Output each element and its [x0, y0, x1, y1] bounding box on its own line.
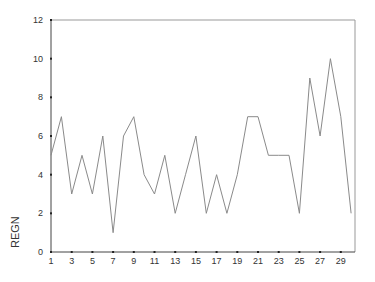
x-tick-label: 27	[315, 256, 325, 266]
plot-frame	[51, 20, 355, 252]
x-tick-label: 17	[212, 256, 222, 266]
y-tick-label: 12	[33, 15, 43, 25]
line-chart: 024681012 1357911131517192123252729 REGN	[0, 0, 375, 282]
x-tick-label: 5	[90, 256, 95, 266]
x-tick-label: 21	[253, 256, 263, 266]
x-tick-label: 23	[274, 256, 284, 266]
y-tick-label: 10	[33, 54, 43, 64]
y-tick-label: 6	[38, 131, 43, 141]
y-tick-label: 4	[38, 170, 43, 180]
y-tick-label: 8	[38, 92, 43, 102]
x-tick-label: 15	[191, 256, 201, 266]
x-tick-label: 29	[336, 256, 346, 266]
x-tick-label: 25	[294, 256, 304, 266]
x-axis: 1357911131517192123252729	[48, 251, 345, 266]
x-tick-label: 19	[232, 256, 242, 266]
regn-series-line	[51, 59, 351, 233]
x-tick-label: 3	[69, 256, 74, 266]
x-tick-label: 7	[111, 256, 116, 266]
x-tick-label: 9	[131, 256, 136, 266]
x-tick-label: 11	[150, 256, 159, 266]
y-tick-label: 2	[38, 208, 43, 218]
y-axis-title: REGN	[9, 216, 21, 248]
x-tick-label: 13	[170, 256, 180, 266]
y-tick-label: 0	[38, 247, 43, 257]
x-tick-label: 1	[48, 256, 53, 266]
y-axis: 024681012	[33, 15, 52, 257]
